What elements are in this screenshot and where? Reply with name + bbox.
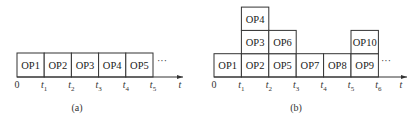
op-cell: OP5 (269, 54, 296, 77)
op-label: OP1 (218, 60, 237, 71)
diagram-b-parallel: OP1OP2OP3OP4OP5OP6OP7OP8OP9OP10···0t1t2t… (212, 7, 408, 114)
tick-label: t1 (41, 79, 48, 93)
op-cell: OP3 (71, 53, 98, 77)
tick-label: 0 (15, 79, 20, 90)
tick-label: 0 (212, 79, 217, 90)
tick-label: t2 (68, 79, 75, 93)
op-label: OP5 (130, 60, 149, 71)
tick-label: t2 (266, 79, 273, 93)
op-cell: OP9 (351, 54, 378, 77)
op-label: OP4 (103, 60, 122, 71)
ellipsis: ··· (157, 55, 167, 66)
op-cell: OP6 (269, 30, 296, 53)
tick-label: t5 (348, 79, 355, 93)
op-label: OP1 (21, 60, 40, 71)
op-label: OP2 (48, 60, 67, 71)
op-label: OP9 (355, 60, 374, 71)
op-label: OP4 (246, 14, 265, 25)
op-label: OP2 (246, 60, 265, 71)
axis-label: t (179, 79, 182, 90)
tick-label: t1 (238, 79, 245, 93)
op-label: OP3 (76, 60, 95, 71)
axis-label: t (400, 79, 403, 90)
op-label: OP8 (328, 60, 347, 71)
tick-label: t3 (95, 79, 102, 93)
op-cell: OP2 (241, 54, 268, 77)
op-label: OP7 (301, 60, 320, 71)
op-cell: OP5 (126, 53, 153, 77)
op-label: OP5 (273, 60, 292, 71)
op-cell: OP4 (241, 7, 268, 30)
op-label: OP3 (246, 37, 265, 48)
op-cell: OP1 (17, 53, 44, 77)
op-cell: OP3 (241, 30, 268, 53)
diagram-a-sequential: OP1OP2OP3OP4OP5···0t1t2t3t4t5t(a) (15, 53, 184, 114)
tick-label: t4 (320, 79, 327, 93)
op-cell: OP10 (351, 30, 378, 53)
op-cell: OP4 (99, 53, 126, 77)
tick-label: t6 (375, 79, 382, 93)
op-cell: OP1 (214, 54, 241, 77)
tick-label: t5 (150, 79, 157, 93)
op-cell: OP2 (44, 53, 71, 77)
op-cell: OP7 (296, 54, 323, 77)
tick-label: t4 (123, 79, 130, 93)
tick-label: t3 (293, 79, 300, 93)
ellipsis: ··· (381, 55, 391, 66)
figure-caption: (a) (71, 102, 82, 114)
op-cell: OP8 (324, 54, 351, 77)
figure-caption: (b) (290, 102, 302, 114)
pipeline-diagram-canvas: OP1OP2OP3OP4OP5···0t1t2t3t4t5t(a) OP1OP2… (0, 0, 414, 118)
op-label: OP10 (353, 37, 377, 48)
op-label: OP6 (273, 37, 292, 48)
